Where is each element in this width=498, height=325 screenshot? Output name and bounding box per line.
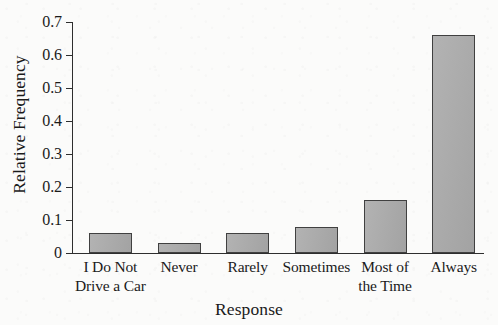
- x-tick-label-line1-5: Always: [430, 258, 476, 275]
- y-tick-label-3: 0.3: [20, 146, 62, 162]
- y-tick-label-2: 0.2: [20, 179, 62, 195]
- y-tick-label-5: 0.5: [20, 80, 62, 96]
- bar-chart: Relative Frequency 00.10.20.30.40.50.60.…: [0, 0, 498, 325]
- x-tick-label-line2-0: Drive a Car: [50, 277, 170, 296]
- x-tick-label-5: Always: [394, 258, 498, 277]
- bar-1: [158, 243, 201, 253]
- y-tick-label-1: 0.1: [20, 212, 62, 228]
- bar-3: [295, 227, 338, 253]
- x-axis-title: Response: [0, 299, 498, 320]
- bar-0: [89, 233, 132, 253]
- x-tick-label-line2-4: the Time: [325, 277, 445, 296]
- y-tick-label-4: 0.4: [20, 113, 62, 129]
- plot-area: [72, 22, 484, 253]
- bar-2: [226, 233, 269, 253]
- bar-4: [364, 200, 407, 253]
- y-tick-label-6: 0.6: [20, 47, 62, 63]
- bar-5: [432, 35, 475, 253]
- y-tick-label-7: 0.7: [20, 14, 62, 30]
